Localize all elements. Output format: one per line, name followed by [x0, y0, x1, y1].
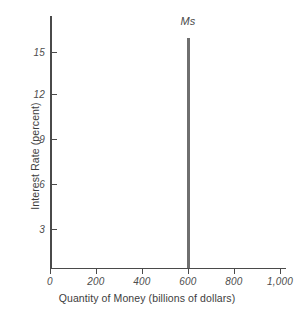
money-supply-curve: [187, 38, 190, 268]
money-supply-curve-label: Ms: [180, 15, 195, 27]
x-tick-mark-400: [142, 269, 143, 274]
x-tick-mark-0: [50, 269, 51, 274]
chart-figure: 3 6 9 12 15 0 200 400 600 800 1,000 Ms I…: [0, 0, 294, 320]
y-tick-mark-6: [52, 184, 57, 185]
y-tick-label-15: 15: [15, 47, 45, 58]
y-tick-mark-3: [52, 229, 57, 230]
x-axis-title: Quantity of Money (billions of dollars): [0, 292, 294, 304]
x-tick-label-800: 800: [212, 276, 256, 287]
y-tick-mark-15: [52, 52, 57, 53]
x-axis-line: [50, 268, 286, 270]
y-tick-mark-12: [52, 94, 57, 95]
x-tick-mark-200: [96, 269, 97, 274]
x-tick-label-400: 400: [120, 276, 164, 287]
x-tick-label-200: 200: [74, 276, 118, 287]
x-tick-mark-600: [188, 269, 189, 274]
y-axis-line: [50, 16, 52, 269]
x-tick-label-1000: 1,000: [258, 276, 294, 287]
x-tick-label-0: 0: [28, 276, 72, 287]
x-tick-mark-1000: [280, 269, 281, 274]
y-tick-mark-9: [52, 139, 57, 140]
x-tick-label-600: 600: [166, 276, 210, 287]
y-axis-title: Interest Rate (percent): [29, 71, 41, 241]
x-tick-mark-800: [234, 269, 235, 274]
